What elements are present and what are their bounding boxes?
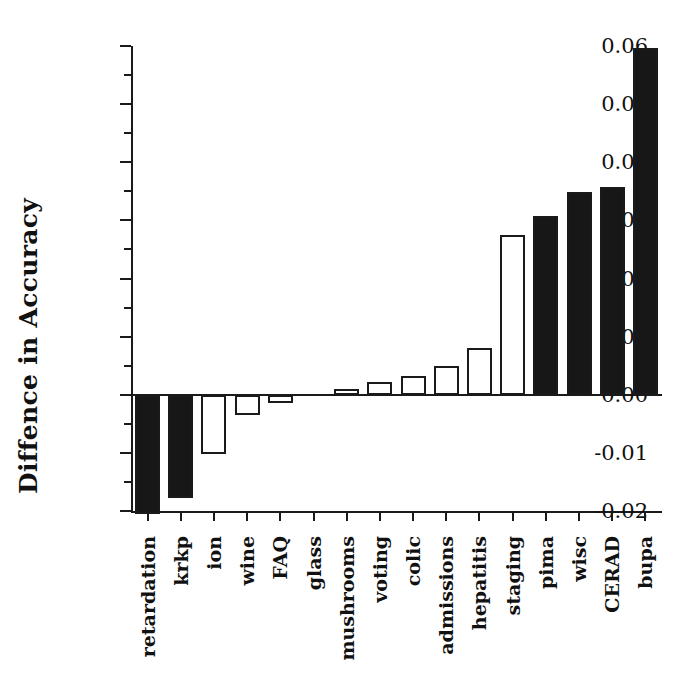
x-axis-label-pima: pima bbox=[535, 536, 557, 676]
plot-area: 0.060.050.040.030.020.010.00-0.01-0.02re… bbox=[131, 46, 662, 511]
y-axis-tick-minor bbox=[124, 190, 131, 192]
y-axis-tick-minor bbox=[124, 423, 131, 425]
y-axis-title: Diffence in Accuracy bbox=[0, 0, 56, 692]
x-axis-label-krkp: krkp bbox=[170, 536, 192, 676]
y-axis-tick-major bbox=[120, 510, 131, 512]
x-axis-label-glass: glass bbox=[303, 536, 325, 676]
y-axis-tick-label: -0.02 bbox=[594, 499, 648, 523]
bar-mushrooms bbox=[334, 389, 359, 395]
x-axis-label-admissions: admissions bbox=[435, 536, 457, 676]
x-axis-tick bbox=[445, 511, 447, 521]
y-axis-tick-minor bbox=[124, 481, 131, 483]
x-axis-label-bupa: bupa bbox=[634, 536, 656, 676]
y-axis-tick-major bbox=[120, 452, 131, 454]
bar-ion bbox=[201, 395, 226, 454]
bar-bupa bbox=[633, 48, 658, 395]
bar-admissions bbox=[434, 366, 459, 395]
x-axis-label-staging: staging bbox=[502, 536, 524, 676]
bar-hepatitis bbox=[467, 348, 492, 395]
bar-faq bbox=[268, 395, 293, 404]
bar-pima bbox=[533, 216, 558, 394]
x-axis-label-faq: FAQ bbox=[269, 536, 291, 676]
y-axis-tick-major bbox=[120, 394, 131, 396]
x-axis-tick bbox=[213, 511, 215, 521]
x-axis-label-wine: wine bbox=[236, 536, 258, 676]
y-axis-tick-minor bbox=[124, 307, 131, 309]
bar-wisc bbox=[567, 192, 592, 394]
bar-cerad bbox=[600, 187, 625, 395]
x-axis-tick bbox=[512, 511, 514, 521]
y-axis-tick-minor bbox=[124, 365, 131, 367]
bar-wine bbox=[235, 395, 260, 415]
y-axis-tick-label: -0.01 bbox=[594, 441, 648, 465]
y-axis-tick-major bbox=[120, 336, 131, 338]
x-axis-tick bbox=[412, 511, 414, 521]
y-axis-tick-major bbox=[120, 219, 131, 221]
x-axis-tick bbox=[346, 511, 348, 521]
x-axis-tick bbox=[545, 511, 547, 521]
bar-retardation bbox=[135, 395, 160, 514]
x-axis-label-retardation: retardation bbox=[137, 536, 159, 676]
difference-in-accuracy-bar-chart: Diffence in Accuracy 0.060.050.040.030.0… bbox=[0, 0, 677, 692]
x-axis-label-cerad: CERAD bbox=[601, 536, 623, 676]
y-axis-tick-major bbox=[120, 161, 131, 163]
x-axis-tick bbox=[379, 511, 381, 521]
bar-krkp bbox=[168, 395, 193, 498]
bar-voting bbox=[367, 382, 392, 395]
x-axis-tick bbox=[611, 511, 613, 521]
x-axis-spine bbox=[131, 511, 662, 513]
x-axis-tick bbox=[478, 511, 480, 521]
x-axis-tick bbox=[578, 511, 580, 521]
y-axis-tick-major bbox=[120, 103, 131, 105]
x-axis-label-colic: colic bbox=[402, 536, 424, 676]
x-axis-tick bbox=[180, 511, 182, 521]
x-axis-tick bbox=[313, 511, 315, 521]
x-axis-label-wisc: wisc bbox=[568, 536, 590, 676]
x-axis-tick bbox=[279, 511, 281, 521]
bar-staging bbox=[500, 235, 525, 395]
x-axis-tick bbox=[246, 511, 248, 521]
y-axis-tick-major bbox=[120, 278, 131, 280]
x-axis-label-hepatitis: hepatitis bbox=[468, 536, 490, 676]
x-axis-label-mushrooms: mushrooms bbox=[336, 536, 358, 676]
y-axis-tick-major bbox=[120, 45, 131, 47]
y-axis-tick-minor bbox=[124, 74, 131, 76]
y-axis-tick-minor bbox=[124, 248, 131, 250]
y-axis-tick-minor bbox=[124, 132, 131, 134]
x-axis-label-ion: ion bbox=[203, 536, 225, 676]
x-axis-tick bbox=[644, 511, 646, 521]
x-axis-label-voting: voting bbox=[369, 536, 391, 676]
bar-colic bbox=[401, 376, 426, 395]
